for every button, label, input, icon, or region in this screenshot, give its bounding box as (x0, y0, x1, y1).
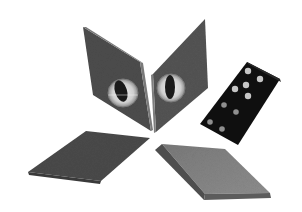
upper-right-tile (151, 19, 208, 133)
upper-left-tile (83, 27, 153, 131)
lower-right-tile (155, 144, 271, 200)
cat-eye-marble-right (157, 74, 185, 102)
photo-scene (0, 0, 302, 212)
lower-left-tile (28, 131, 150, 184)
cat-eye-marble-left (108, 79, 138, 107)
domino (200, 62, 281, 145)
scene-illustration (0, 0, 302, 212)
